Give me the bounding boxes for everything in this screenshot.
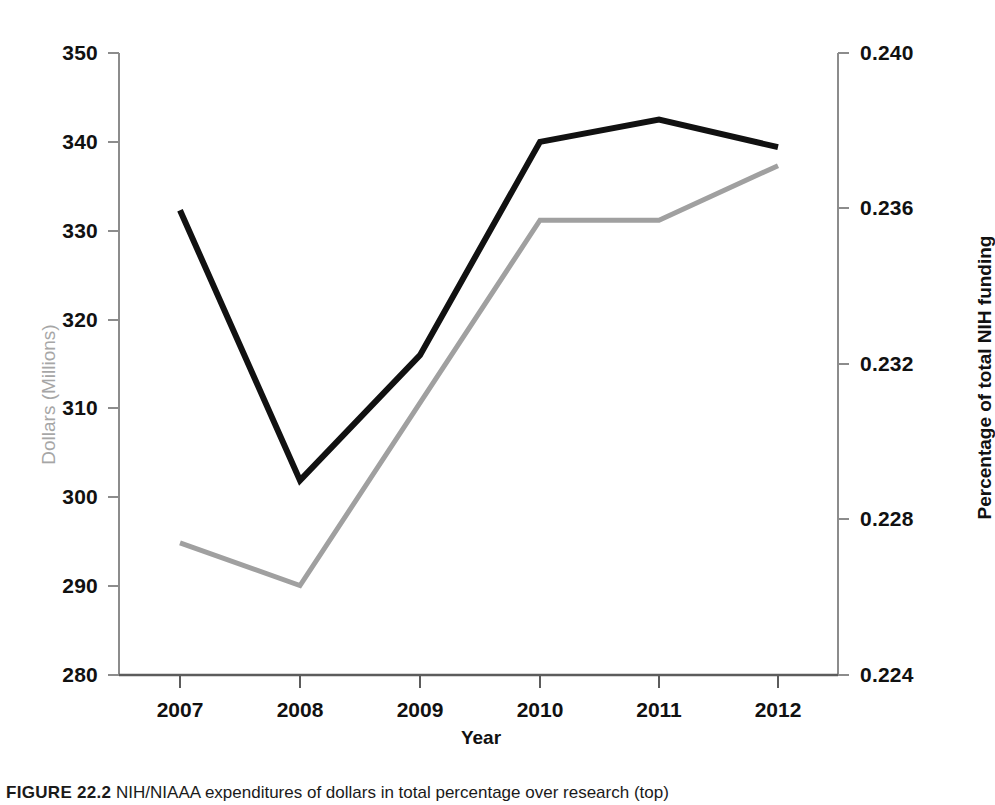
x-tick-2012: 2012	[733, 699, 823, 720]
figure-caption-label: FIGURE 22.2	[6, 783, 111, 802]
right-tick-0236: 0.236	[860, 197, 970, 218]
right-tick-0228: 0.228	[860, 508, 970, 529]
x-tick-2008: 2008	[255, 699, 345, 720]
right-axis-ticks	[838, 53, 849, 675]
figure-caption: FIGURE 22.2 NIH/NIAAA expenditures of do…	[6, 782, 982, 805]
right-tick-0232: 0.232	[860, 353, 970, 374]
x-axis-title: Year	[381, 728, 581, 747]
left-tick-330: 330	[8, 220, 98, 241]
left-axis-ticks	[108, 53, 119, 675]
x-tick-2007: 2007	[135, 699, 225, 720]
x-tick-2009: 2009	[375, 699, 465, 720]
series-line-percentage	[180, 166, 778, 586]
figure-caption-text: NIH/NIAAA expenditures of dollars in tot…	[116, 783, 669, 802]
x-axis-ticks	[180, 675, 778, 688]
left-tick-290: 290	[8, 575, 98, 596]
x-tick-2011: 2011	[614, 699, 704, 720]
left-tick-340: 340	[8, 131, 98, 152]
left-axis-title: Dollars (Millions)	[39, 295, 58, 495]
right-axis-title: Percentage of total NIH funding	[975, 208, 994, 548]
x-tick-2010: 2010	[495, 699, 585, 720]
right-tick-0224: 0.224	[860, 664, 970, 685]
left-tick-280: 280	[8, 664, 98, 685]
series-line-dollars	[180, 120, 778, 481]
left-tick-350: 350	[8, 42, 98, 63]
right-tick-0240: 0.240	[860, 42, 970, 63]
